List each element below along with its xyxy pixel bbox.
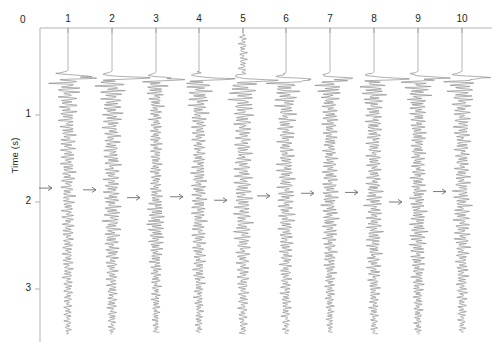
seismic-trace-4 bbox=[187, 28, 236, 332]
seismic-plot bbox=[0, 0, 499, 355]
arrow-marker-trace-9 bbox=[389, 199, 402, 204]
arrow-marker-trace-6 bbox=[257, 193, 270, 198]
trace-number-8: 8 bbox=[362, 13, 386, 24]
trace-number-1: 1 bbox=[56, 13, 80, 24]
arrow-marker-trace-7 bbox=[301, 191, 314, 196]
seismic-trace-figure: Time (s) 0 12345678910 123 bbox=[0, 0, 499, 355]
trace-number-6: 6 bbox=[274, 13, 298, 24]
y-tick-label-3: 3 bbox=[13, 282, 31, 293]
arrow-marker-trace-5 bbox=[214, 198, 227, 203]
trace-number-10: 10 bbox=[450, 13, 474, 24]
seismic-trace-5 bbox=[228, 28, 278, 334]
arrow-marker-trace-3 bbox=[127, 195, 140, 200]
figure-caption bbox=[40, 346, 460, 355]
seismic-trace-1 bbox=[49, 28, 97, 334]
arrow-marker-trace-8 bbox=[345, 190, 358, 195]
arrow-marker-trace-1 bbox=[39, 185, 52, 190]
seismic-trace-8 bbox=[360, 28, 410, 334]
arrow-marker-trace-10 bbox=[433, 189, 446, 194]
time-zero-label: 0 bbox=[20, 14, 26, 25]
seismic-trace-10 bbox=[444, 28, 491, 332]
trace-number-3: 3 bbox=[144, 13, 168, 24]
seismic-trace-6 bbox=[266, 28, 311, 334]
trace-number-9: 9 bbox=[406, 13, 430, 24]
arrow-marker-trace-4 bbox=[170, 194, 183, 199]
traces-layer bbox=[49, 28, 491, 334]
y-tick-label-1: 1 bbox=[13, 108, 31, 119]
seismic-trace-7 bbox=[315, 28, 353, 332]
trace-number-4: 4 bbox=[187, 13, 211, 24]
seismic-trace-3 bbox=[143, 28, 185, 332]
trace-number-2: 2 bbox=[100, 13, 124, 24]
y-tick-label-2: 2 bbox=[13, 195, 31, 206]
arrow-marker-trace-2 bbox=[83, 187, 96, 192]
trace-number-5: 5 bbox=[231, 13, 255, 24]
seismic-trace-2 bbox=[95, 28, 150, 334]
seismic-trace-9 bbox=[401, 28, 450, 334]
trace-number-7: 7 bbox=[318, 13, 342, 24]
y-axis-label: Time (s) bbox=[9, 116, 20, 196]
